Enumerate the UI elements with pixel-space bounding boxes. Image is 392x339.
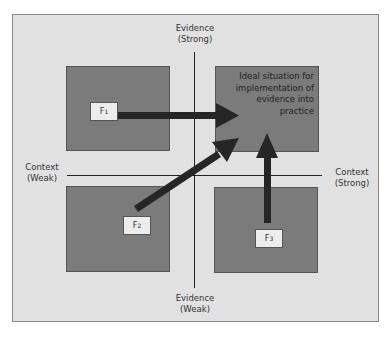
factor-f3-label: F3 [255, 229, 283, 248]
arrows-layer [0, 0, 392, 339]
factor-f2-label: F2 [123, 216, 151, 235]
arrow-f1 [118, 103, 239, 128]
factor-f1-label: F1 [90, 102, 118, 121]
f3-subscript: 3 [269, 235, 273, 242]
arrow-f2 [134, 138, 239, 212]
arrow-f3 [256, 133, 278, 223]
f1-subscript: 1 [104, 108, 108, 115]
f2-subscript: 2 [137, 222, 141, 229]
